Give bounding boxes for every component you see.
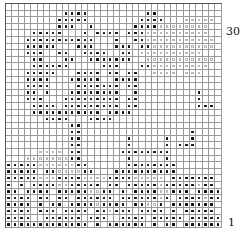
empty-cell (215, 103, 221, 110)
dark-stitch-cell (215, 195, 221, 202)
empty-cell (215, 44, 221, 51)
empty-cell (215, 63, 221, 70)
empty-cell (215, 156, 221, 163)
row-label-1: 1 (228, 216, 235, 229)
empty-cell (215, 202, 221, 209)
empty-cell (215, 37, 221, 44)
empty-cell (215, 4, 221, 11)
dark-stitch-cell (215, 189, 221, 196)
empty-cell (215, 11, 221, 18)
empty-cell (215, 77, 221, 84)
empty-cell (215, 162, 221, 169)
pattern-grid (5, 3, 222, 228)
empty-cell (215, 123, 221, 130)
empty-cell (215, 149, 221, 156)
empty-cell (215, 30, 221, 37)
empty-cell (215, 110, 221, 117)
empty-cell (215, 169, 221, 176)
empty-cell (215, 90, 221, 97)
dark-stitch-cell (215, 215, 221, 222)
empty-cell (215, 57, 221, 64)
empty-cell (215, 175, 221, 182)
empty-cell (215, 208, 221, 215)
empty-cell (215, 136, 221, 143)
empty-cell (215, 142, 221, 149)
empty-cell (215, 50, 221, 57)
empty-cell (215, 24, 221, 31)
empty-cell (215, 70, 221, 77)
empty-cell (215, 182, 221, 189)
row-label-30: 30 (226, 25, 240, 38)
empty-cell (215, 129, 221, 136)
empty-cell (215, 96, 221, 103)
empty-cell (215, 116, 221, 123)
dark-stitch-cell (215, 222, 221, 229)
empty-cell (215, 83, 221, 90)
empty-cell (215, 17, 221, 24)
